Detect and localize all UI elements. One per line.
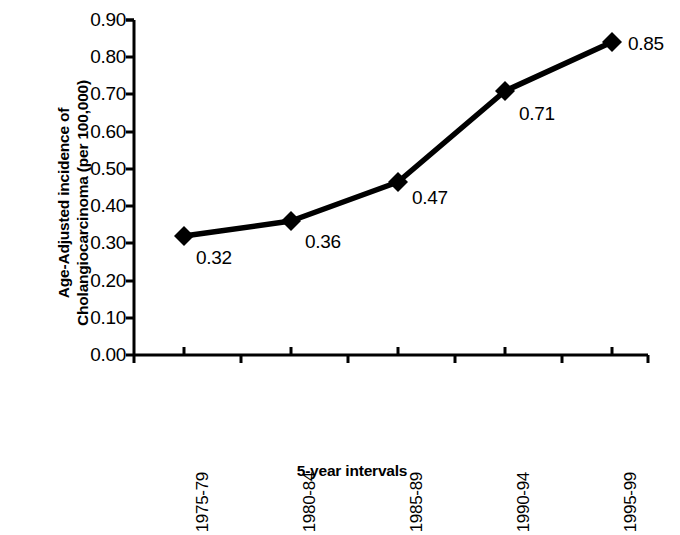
data-point-value-label: 0.32 — [196, 247, 232, 269]
x-axis-tick-label: 1995-99 — [621, 472, 641, 535]
x-axis-tick-label: 1985-89 — [407, 472, 427, 535]
data-point-value-label: 0.47 — [412, 187, 448, 209]
x-axis-title: 5-year intervals — [0, 462, 680, 480]
x-axis-tick-label: 1980-84 — [300, 472, 320, 535]
data-point-markers — [174, 32, 622, 246]
x-axis-title-text: 5-year intervals — [297, 462, 408, 480]
axis-lines — [134, 20, 648, 355]
data-point-value-label: 0.85 — [628, 33, 664, 55]
axis-ticks — [126, 20, 648, 363]
data-point-value-label: 0.71 — [519, 103, 555, 125]
data-series-line — [184, 42, 612, 236]
data-point-marker — [174, 226, 194, 246]
data-point-marker — [602, 32, 622, 52]
x-axis-tick-label: 1990-94 — [514, 472, 534, 535]
x-axis-tick-label: 1975-79 — [193, 472, 213, 535]
data-point-value-label: 0.36 — [305, 231, 341, 253]
data-point-marker — [281, 211, 301, 231]
